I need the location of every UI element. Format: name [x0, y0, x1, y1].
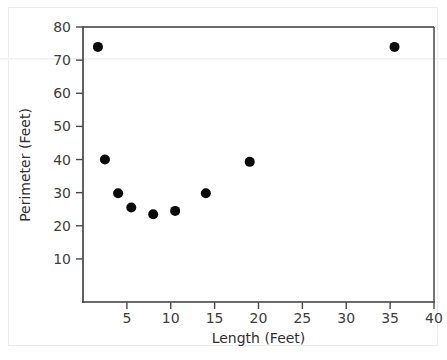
data-point — [93, 42, 103, 52]
x-tick-label: 30 — [337, 310, 355, 326]
y-tick-label: 60 — [53, 85, 71, 101]
x-tick-label: 5 — [122, 310, 131, 326]
data-point — [126, 203, 136, 213]
x-axis-ticks: 510152025303540 — [122, 302, 443, 326]
y-tick-label: 10 — [53, 251, 71, 267]
y-tick-label: 20 — [53, 218, 71, 234]
x-tick-label: 40 — [425, 310, 443, 326]
y-axis-ticks: 1020304050607080 — [53, 19, 83, 267]
x-tick-label: 35 — [381, 310, 399, 326]
y-tick-label: 70 — [53, 52, 71, 68]
x-axis-title: Length (Feet) — [212, 330, 306, 346]
x-tick-label: 20 — [250, 310, 268, 326]
y-tick-label: 50 — [53, 118, 71, 134]
data-point — [390, 42, 400, 52]
x-tick-label: 25 — [293, 310, 311, 326]
y-tick-label: 80 — [53, 19, 71, 35]
data-point — [170, 206, 180, 216]
y-axis-title: Perimeter (Feet) — [17, 108, 33, 222]
y-tick-label: 40 — [53, 152, 71, 168]
data-point — [113, 188, 123, 198]
data-point — [245, 157, 255, 167]
x-tick-label: 10 — [162, 310, 180, 326]
data-point — [148, 209, 158, 219]
plot-frame — [83, 27, 434, 302]
data-point — [201, 188, 211, 198]
data-point — [100, 155, 110, 165]
x-tick-label: 15 — [206, 310, 224, 326]
chart-figure: 1020304050607080 510152025303540 Length … — [0, 0, 447, 360]
scatter-plot-svg: 1020304050607080 510152025303540 Length … — [0, 0, 447, 360]
data-points-layer — [93, 42, 400, 219]
y-tick-label: 30 — [53, 185, 71, 201]
